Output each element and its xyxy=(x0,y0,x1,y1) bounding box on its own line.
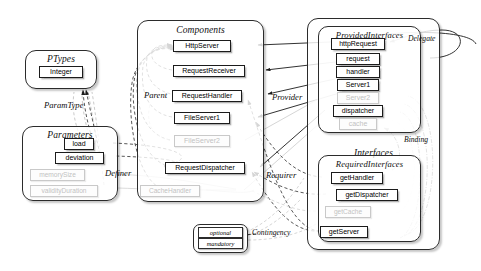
node-gethandler[interactable]: getHandler xyxy=(331,172,383,184)
node-getserver[interactable]: getServer xyxy=(320,226,368,238)
node-server1[interactable]: Server1 xyxy=(337,79,379,91)
node-requestreceiver[interactable]: RequestReceiver xyxy=(173,65,245,77)
node-requestdispatcher[interactable]: RequestDispatcher xyxy=(165,162,245,174)
node-requesthandler[interactable]: RequestHandler xyxy=(172,90,242,102)
label-paramtype: ParamType xyxy=(44,100,83,110)
node-httprequest[interactable]: httpRequest xyxy=(331,38,385,50)
label-delegate: Delegate xyxy=(408,34,435,43)
node-optional[interactable]: optional xyxy=(198,227,243,238)
node-fileserver1[interactable]: FileServer1 xyxy=(174,112,230,124)
label-contingency: Contingency xyxy=(252,228,290,237)
node-load[interactable]: load xyxy=(64,138,94,150)
node-dispatcher[interactable]: dispatcher xyxy=(333,105,383,117)
node-mandatory[interactable]: mandatory xyxy=(198,238,243,249)
label-binding: Binding xyxy=(404,135,428,144)
label-definer: Definer xyxy=(105,168,131,178)
components-title: Components xyxy=(138,25,263,35)
node-cache[interactable]: cache xyxy=(339,118,377,130)
label-parent: Parent xyxy=(144,90,167,100)
required-interfaces-title: RequiredInterfaces xyxy=(319,159,420,169)
node-request[interactable]: request xyxy=(336,53,380,65)
node-cachehandler[interactable]: CacheHandler xyxy=(140,185,200,197)
node-memorysize[interactable]: memorySize xyxy=(30,169,85,181)
node-validityduration[interactable]: validityDuration xyxy=(30,185,98,197)
node-getdispatcher[interactable]: getDispatcher xyxy=(336,189,398,201)
node-getcache[interactable]: getCache xyxy=(325,206,371,218)
label-provider: Provider xyxy=(272,92,302,102)
node-deviation[interactable]: deviation xyxy=(55,152,104,164)
node-handler[interactable]: handler xyxy=(336,66,380,78)
node-fileserver2[interactable]: FileServer2 xyxy=(174,135,230,147)
node-server2[interactable]: Server2 xyxy=(337,92,379,104)
label-requirer: Requirer xyxy=(266,170,296,180)
node-httpserver[interactable]: HttpServer xyxy=(173,40,231,52)
diagram-canvas: PTypes Parameters Components Interfaces … xyxy=(0,0,481,271)
node-integer[interactable]: Integer xyxy=(39,66,83,78)
ptypes-title: PTypes xyxy=(26,54,96,64)
